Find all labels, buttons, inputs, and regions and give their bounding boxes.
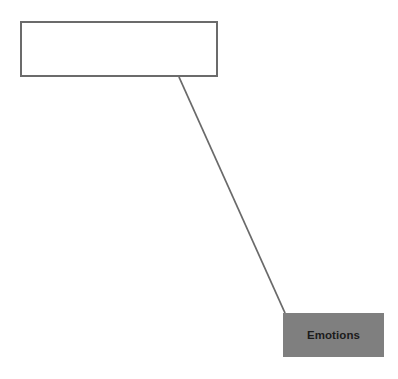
node-emotions-label: Emotions — [307, 329, 360, 343]
node-emotions[interactable]: Emotions — [283, 313, 384, 357]
diagram-canvas: Emotions — [0, 0, 398, 379]
connector-line-empty-to-emotions — [179, 77, 285, 313]
node-empty-box[interactable] — [20, 21, 218, 77]
